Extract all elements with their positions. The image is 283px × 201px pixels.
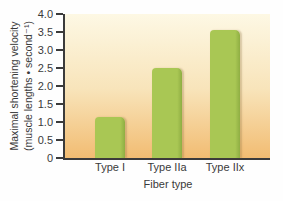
y-tick-mark-1.5 [56,103,63,105]
y-tick-label-1.5: 1.5 [17,99,53,110]
y-tick-label-3.0: 3.0 [17,45,53,56]
y-tick-mark-2.5 [56,67,63,69]
x-label-type-iix: Type IIx [190,161,260,173]
y-tick-label-0: 0 [17,153,53,164]
y-tick-label-4.0: 4.0 [17,9,53,20]
y-tick-mark-1.0 [56,121,63,123]
y-tick-label-3.5: 3.5 [17,27,53,38]
y-tick-label-2.0: 2.0 [17,81,53,92]
y-tick-mark-4.0 [56,13,63,15]
y-tick-mark-3.5 [56,31,63,33]
y-tick-label-1.0: 1.0 [17,117,53,128]
y-tick-mark-0 [56,157,63,159]
bar-chart-figure: Maximal shortening velocity (muscle leng… [0,0,283,201]
y-tick-mark-0.5 [56,139,63,141]
y-tick-label-2.5: 2.5 [17,63,53,74]
plot-area: 4.03.53.02.52.01.51.00.50 [63,14,270,160]
y-tick-label-0.5: 0.5 [17,135,53,146]
bar-type-iix [210,30,240,158]
y-tick-mark-2.0 [56,85,63,87]
bar-type-i [95,117,125,158]
y-tick-mark-3.0 [56,49,63,51]
bar-type-iia [152,68,182,158]
x-axis-title: Fiber type [115,178,221,190]
